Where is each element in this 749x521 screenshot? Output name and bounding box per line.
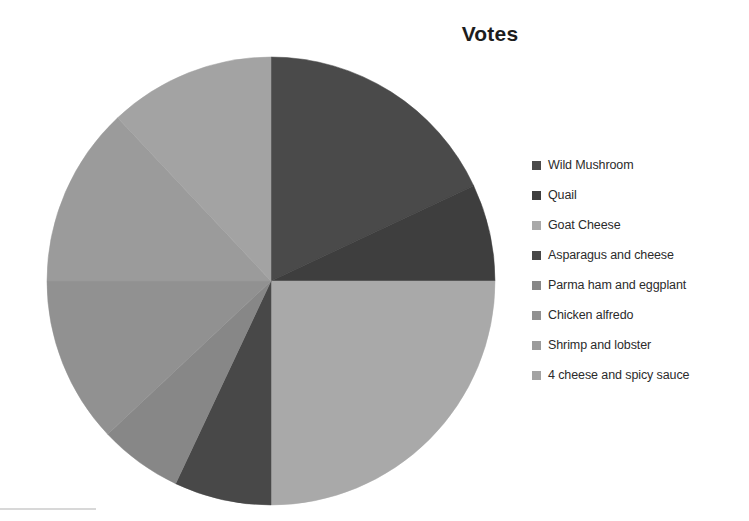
legend-item[interactable]: Wild Mushroom	[532, 150, 747, 180]
legend-swatch-icon	[532, 371, 541, 380]
legend-item-label: Wild Mushroom	[548, 150, 634, 180]
legend-item-label: Shrimp and lobster	[548, 330, 651, 360]
legend-item-label: Quail	[548, 180, 577, 210]
legend-item-label: Asparagus and cheese	[548, 240, 674, 270]
pie-chart-figure: Votes Wild MushroomQuailGoat CheeseAspar…	[0, 0, 749, 521]
legend-item[interactable]: Parma ham and eggplant	[532, 270, 747, 300]
legend-item[interactable]: Chicken alfredo	[532, 300, 747, 330]
pie-slice-group	[47, 57, 495, 505]
legend-item-label: Goat Cheese	[548, 210, 621, 240]
legend-item[interactable]: Asparagus and cheese	[532, 240, 747, 270]
pie-slice[interactable]	[271, 281, 495, 505]
legend-item-label: 4 cheese and spicy sauce	[548, 360, 689, 390]
legend-swatch-icon	[532, 191, 541, 200]
legend-swatch-icon	[532, 311, 541, 320]
legend-swatch-icon	[532, 221, 541, 230]
legend-item-label: Chicken alfredo	[548, 300, 633, 330]
legend-swatch-icon	[532, 251, 541, 260]
legend-swatch-icon	[532, 161, 541, 170]
legend-swatch-icon	[532, 281, 541, 290]
legend-item[interactable]: Quail	[532, 180, 747, 210]
legend-item[interactable]: Goat Cheese	[532, 210, 747, 240]
legend-item[interactable]: 4 cheese and spicy sauce	[532, 360, 747, 390]
pie-svg	[0, 0, 520, 521]
chart-legend: Wild MushroomQuailGoat CheeseAsparagus a…	[532, 150, 747, 390]
scan-edge-artifact	[0, 508, 96, 510]
legend-item[interactable]: Shrimp and lobster	[532, 330, 747, 360]
legend-item-label: Parma ham and eggplant	[548, 270, 686, 300]
legend-swatch-icon	[532, 341, 541, 350]
pie-plot-area	[0, 0, 520, 521]
